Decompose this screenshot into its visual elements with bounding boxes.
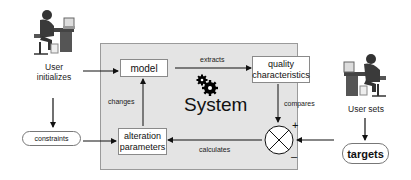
- alteration-parameters-node: alteration parameters: [118, 128, 167, 155]
- system-title: System: [184, 94, 247, 116]
- comparator-icon: [265, 126, 293, 154]
- model-node: model: [120, 59, 168, 77]
- quality-label-line2: characteristics: [252, 70, 310, 81]
- alteration-label-line1: alteration: [120, 131, 166, 142]
- constraints-label: constraints: [35, 135, 69, 142]
- user-label-line2: initializes: [28, 72, 80, 82]
- quality-characteristics-node: quality characteristics: [252, 56, 310, 83]
- minus-sign: –: [291, 150, 297, 162]
- user-sets-label: User sets: [337, 104, 395, 114]
- edge-label-calculates: calculates: [199, 146, 230, 153]
- gears-icon: [196, 74, 218, 96]
- edge-label-changes: changes: [108, 98, 134, 105]
- alteration-label-line2: parameters: [120, 142, 166, 153]
- user-at-computer-icon: [340, 48, 392, 100]
- user-label-line1: User: [28, 62, 80, 72]
- constraints-node: constraints: [22, 131, 81, 146]
- targets-label: targets: [347, 148, 384, 160]
- model-label: model: [130, 63, 157, 74]
- plus-sign: +: [292, 119, 298, 131]
- edge-label-extracts: extracts: [200, 56, 225, 63]
- edge-label-compares: compares: [284, 100, 315, 107]
- user-initializes-label: User initializes: [28, 62, 80, 82]
- user-at-computer-icon: [26, 6, 78, 58]
- targets-node: targets: [342, 143, 389, 164]
- quality-label-line1: quality: [252, 59, 310, 70]
